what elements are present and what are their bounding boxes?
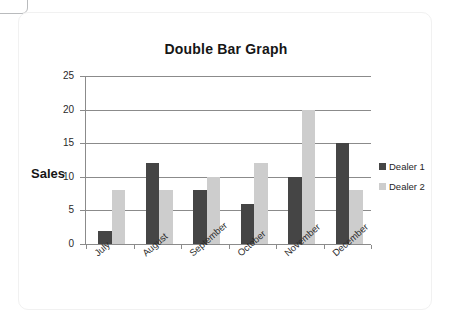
x-tick-mark [371, 245, 372, 249]
bar [336, 143, 350, 244]
legend-swatch-icon [379, 183, 386, 190]
plot-area [86, 76, 371, 244]
gridline [86, 76, 371, 77]
y-tick-label: 0 [52, 238, 74, 249]
gridline [86, 110, 371, 111]
legend-label: Dealer 1 [389, 161, 425, 172]
legend-item: Dealer 1 [379, 161, 435, 172]
gridline [86, 177, 371, 178]
gridline [86, 143, 371, 144]
x-tick-mark [134, 245, 135, 249]
x-tick-mark [181, 245, 182, 249]
bar [112, 190, 126, 244]
chart-legend: Dealer 1Dealer 2 [379, 161, 435, 201]
chart-title: Double Bar Graph [19, 41, 433, 57]
x-tick-mark [229, 245, 230, 249]
legend-item: Dealer 2 [379, 181, 435, 192]
x-tick-mark [86, 245, 87, 249]
y-tick-label: 5 [52, 204, 74, 215]
y-tick-label: 20 [52, 104, 74, 115]
gridline [86, 210, 371, 211]
x-tick-mark [276, 245, 277, 249]
y-tick-label: 10 [52, 171, 74, 182]
y-tick-label: 15 [52, 137, 74, 148]
y-tick-label: 25 [52, 70, 74, 81]
chart-card: Double Bar Graph Sales 0510152025 JulyAu… [18, 12, 432, 310]
x-tick-mark [324, 245, 325, 249]
bar [146, 163, 160, 244]
legend-swatch-icon [379, 163, 386, 170]
legend-label: Dealer 2 [389, 181, 425, 192]
